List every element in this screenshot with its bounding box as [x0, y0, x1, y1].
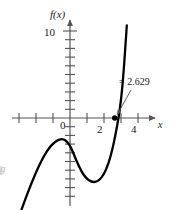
x-axis-tick-label-2: 2 — [97, 124, 103, 135]
annotation-leader-line — [117, 90, 131, 115]
page-edge-text-fragment: g — [0, 163, 6, 174]
plot-area — [0, 0, 171, 210]
y-axis-label: f(x) — [50, 9, 65, 20]
root-point-marker — [112, 115, 117, 120]
origin-label: 0 — [60, 120, 66, 131]
y-axis-tick-label-10: 10 — [44, 27, 55, 38]
x-axis-label: x — [158, 120, 162, 130]
root-annotation-label: = 2.629 — [119, 77, 150, 87]
x-axis-tick-label-4: 4 — [131, 124, 137, 135]
function-graph-figure: f(x) 10 0 2 4 x = 2.629 g — [0, 0, 171, 210]
